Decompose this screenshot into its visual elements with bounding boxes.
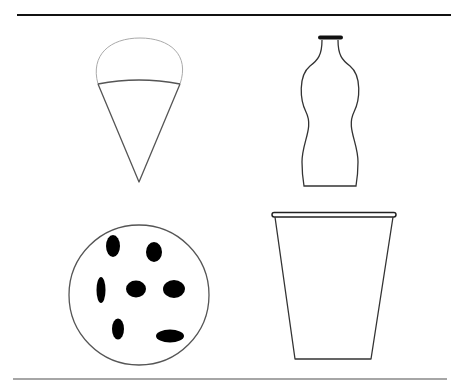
chip-6 bbox=[112, 319, 124, 340]
cookie-icon bbox=[69, 225, 209, 365]
chip-5 bbox=[163, 280, 185, 298]
chip-1 bbox=[106, 235, 120, 257]
chip-2 bbox=[146, 242, 162, 262]
chip-7 bbox=[156, 330, 184, 343]
chip-4 bbox=[126, 281, 146, 298]
drawing-canvas: Ice cream cone Bottle Chocolate chip coo… bbox=[0, 0, 472, 390]
chip-3 bbox=[97, 277, 106, 303]
cup-icon bbox=[272, 213, 396, 360]
ice-cream-cone-icon bbox=[96, 38, 182, 182]
bottle-icon bbox=[301, 36, 359, 187]
